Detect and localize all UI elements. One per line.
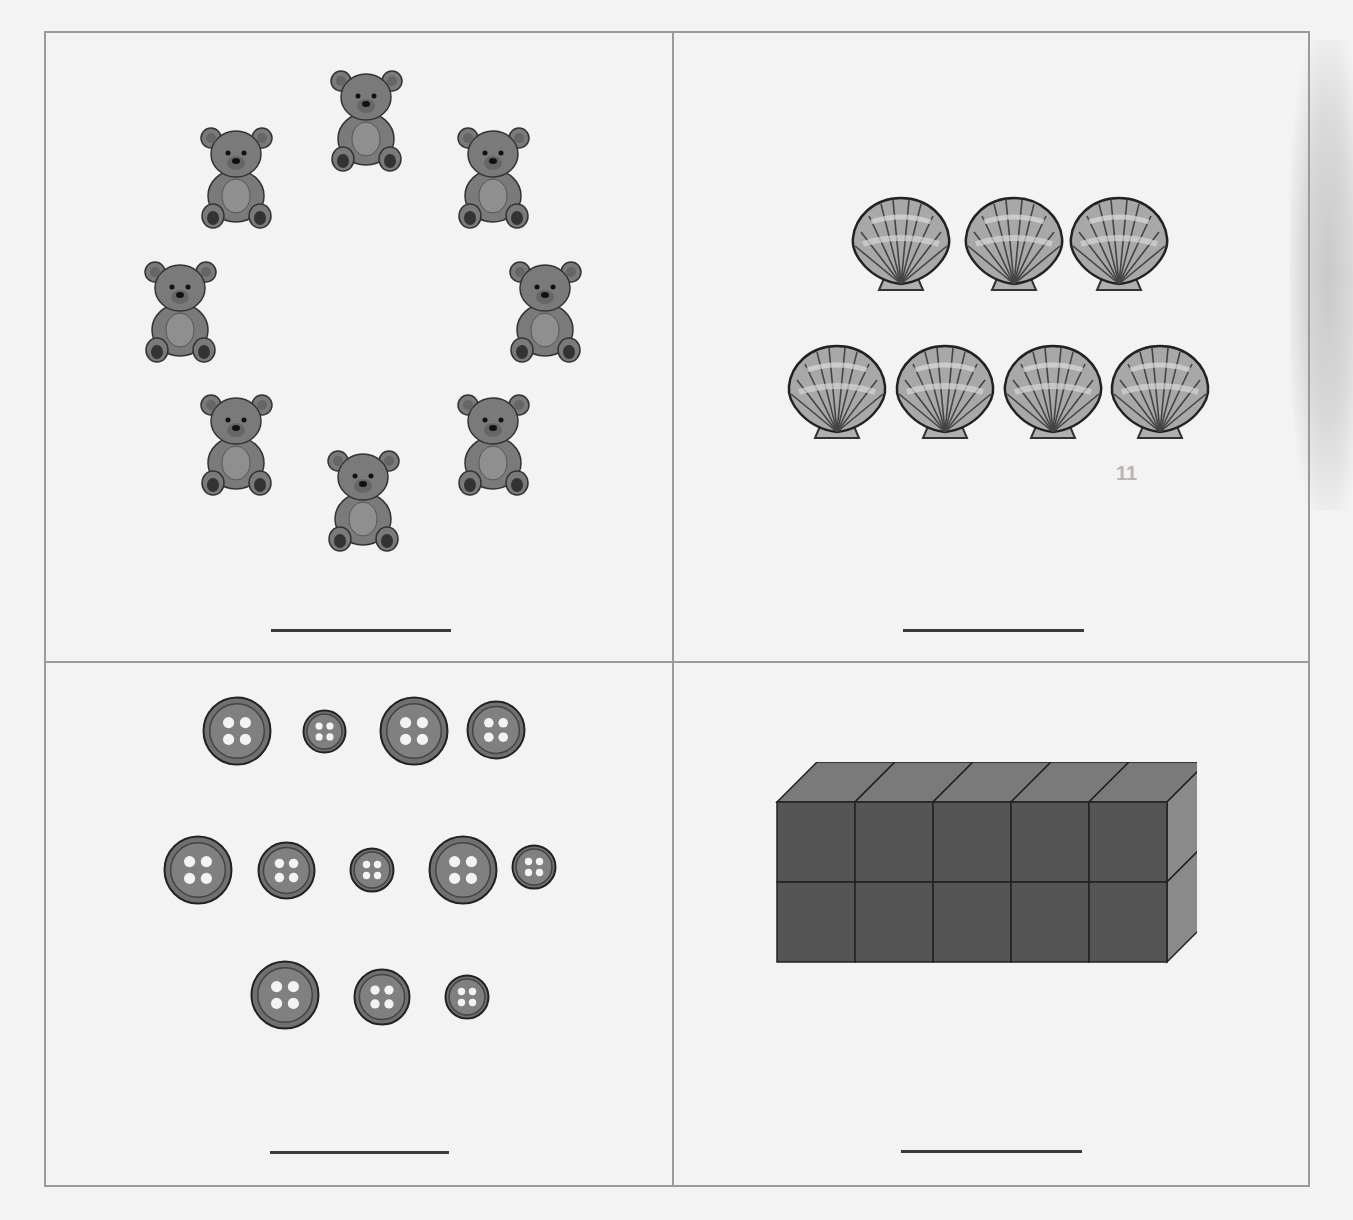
button-icon: [444, 974, 490, 1020]
button-icon: [353, 968, 411, 1026]
cube-icon: [737, 762, 1197, 992]
panel-divider-vertical: [672, 31, 674, 1187]
seashell-icon: [893, 340, 997, 444]
seashell-icon: [962, 192, 1066, 296]
button-icon: [511, 844, 557, 890]
seashell-icon: [1108, 340, 1212, 444]
teddy-bear-icon: [456, 124, 531, 230]
teddy-bear-icon: [199, 124, 274, 230]
button-icon: [202, 696, 272, 766]
seashell-icon: [1067, 192, 1171, 296]
button-icon: [379, 696, 449, 766]
button-icon: [250, 960, 320, 1030]
panel-divider-horizontal: [44, 661, 1310, 663]
button-icon: [349, 847, 395, 893]
answer-line-bears[interactable]: [271, 629, 451, 632]
teddy-bear-icon: [143, 258, 218, 364]
answer-line-cubes[interactable]: [901, 1150, 1082, 1153]
answer-line-buttons[interactable]: [270, 1151, 449, 1154]
button-icon: [428, 835, 498, 905]
teddy-bear-icon: [329, 67, 404, 173]
button-icon: [466, 700, 526, 760]
seashell-icon: [1001, 340, 1105, 444]
seashell-icon: [785, 340, 889, 444]
button-icon: [302, 709, 347, 754]
answer-line-shells[interactable]: [903, 629, 1084, 632]
ghost-mark: 11: [1116, 462, 1137, 485]
button-icon: [257, 841, 316, 900]
teddy-bear-icon: [326, 447, 401, 553]
seashell-icon: [849, 192, 953, 296]
button-icon: [163, 835, 233, 905]
teddy-bear-icon: [456, 391, 531, 497]
teddy-bear-icon: [508, 258, 583, 364]
teddy-bear-icon: [199, 391, 274, 497]
